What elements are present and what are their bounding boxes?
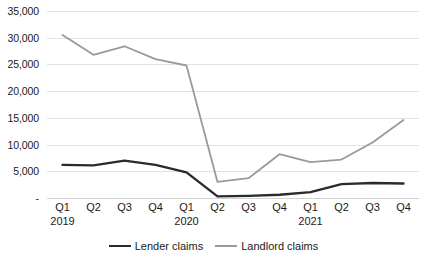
source-note bbox=[6, 253, 306, 260]
x-axis-year-label: 2019 bbox=[50, 214, 74, 228]
x-axis-quarter-label: Q2 bbox=[86, 201, 101, 214]
x-axis-tick: Q12020 bbox=[174, 201, 198, 228]
x-axis-quarter-label: Q1 bbox=[50, 201, 74, 214]
y-axis-tick-label: - bbox=[36, 193, 40, 204]
series-layer bbox=[47, 11, 419, 198]
x-axis-tick: Q3 bbox=[365, 201, 380, 214]
x-axis-quarter-label: Q4 bbox=[396, 201, 411, 214]
legend-line-swatch-icon bbox=[109, 245, 131, 247]
x-axis-tick: Q4 bbox=[148, 201, 163, 214]
x-axis-tick: Q2 bbox=[210, 201, 225, 214]
x-axis-tick: Q2 bbox=[86, 201, 101, 214]
chart-legend: Lender claimsLandlord claims bbox=[0, 238, 427, 254]
x-axis-tick: Q3 bbox=[117, 201, 132, 214]
plot-wrapper: -5,00010,00015,00020,00025,00030,00035,0… bbox=[0, 0, 427, 204]
quarterly-claims-line-chart: -5,00010,00015,00020,00025,00030,00035,0… bbox=[0, 0, 427, 260]
x-axis-quarter-label: Q1 bbox=[174, 201, 198, 214]
legend-item[interactable]: Landlord claims bbox=[215, 240, 318, 253]
y-axis-tick-label: 20,000 bbox=[7, 86, 39, 97]
x-axis-tick: Q12021 bbox=[298, 201, 322, 228]
plot-area bbox=[47, 11, 419, 198]
y-axis-tick-label: 5,000 bbox=[13, 166, 39, 177]
x-axis-quarter-label: Q2 bbox=[210, 201, 225, 214]
x-axis-quarter-label: Q3 bbox=[117, 201, 132, 214]
x-axis-quarter-label: Q3 bbox=[365, 201, 380, 214]
x-axis-year-label: 2020 bbox=[174, 214, 198, 228]
x-axis-tick: Q4 bbox=[272, 201, 287, 214]
legend-item-label: Landlord claims bbox=[241, 240, 318, 253]
x-axis-tick: Q4 bbox=[396, 201, 411, 214]
legend-item[interactable]: Lender claims bbox=[109, 240, 203, 253]
y-axis-tick-label: 25,000 bbox=[7, 59, 39, 70]
x-axis-tick: Q3 bbox=[241, 201, 256, 214]
x-axis-quarter-label: Q1 bbox=[298, 201, 322, 214]
x-axis-quarter-label: Q4 bbox=[148, 201, 163, 214]
y-axis-tick-label: 15,000 bbox=[7, 113, 39, 124]
y-axis: -5,00010,00015,00020,00025,00030,00035,0… bbox=[0, 0, 44, 204]
y-axis-tick-label: 30,000 bbox=[7, 32, 39, 43]
x-axis-tick: Q12019 bbox=[50, 201, 74, 228]
gridline bbox=[47, 198, 419, 199]
series-line-lender-claims bbox=[63, 161, 404, 197]
x-axis-tick: Q2 bbox=[334, 201, 349, 214]
y-axis-tick-label: 35,000 bbox=[7, 6, 39, 17]
legend-line-swatch-icon bbox=[215, 245, 237, 247]
legend-item-label: Lender claims bbox=[135, 240, 203, 253]
series-line-landlord-claims bbox=[63, 35, 404, 182]
x-axis-year-label: 2021 bbox=[298, 214, 322, 228]
x-axis-quarter-label: Q3 bbox=[241, 201, 256, 214]
x-axis-quarter-label: Q2 bbox=[334, 201, 349, 214]
x-axis-quarter-label: Q4 bbox=[272, 201, 287, 214]
x-axis: Q12019Q2Q3Q4Q12020Q2Q3Q4Q12021Q2Q3Q4 bbox=[47, 201, 419, 239]
y-axis-tick-label: 10,000 bbox=[7, 139, 39, 150]
